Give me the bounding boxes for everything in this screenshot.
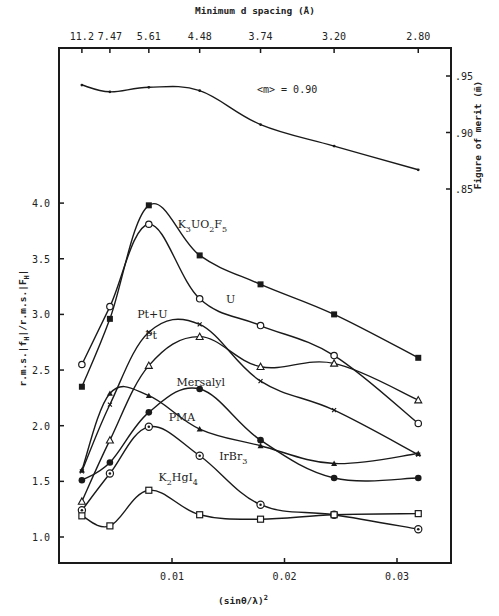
open-circle-marker <box>146 221 152 227</box>
series-label-mersalyl: Mersalyl <box>177 376 226 389</box>
small-dot-marker <box>333 145 336 148</box>
right-axis-title: Figure of merit (m̄) <box>472 81 483 190</box>
curve-mersalyl <box>82 388 418 481</box>
small-dot-marker <box>417 168 420 171</box>
filled-circle-marker <box>257 437 264 444</box>
left-tick-label: 3.5 <box>32 254 50 265</box>
filled-square-marker <box>79 384 85 390</box>
filled-square-marker <box>197 252 203 258</box>
top-tick-label: 4.48 <box>188 31 212 42</box>
plot-frame <box>59 48 451 563</box>
top-tick-label: 2.80 <box>406 31 430 42</box>
left-tick-label: 2.5 <box>32 365 50 376</box>
left-axis-title: r.m.s.|fH|/r.m.s.|FH| <box>17 269 31 386</box>
cross-marker <box>259 379 263 383</box>
filled-circle-marker <box>146 409 153 416</box>
filled-circle-marker <box>107 459 114 466</box>
open-circle-marker <box>107 303 113 309</box>
series-label-k3uo2f5: K3UO2F5 <box>178 218 227 234</box>
open-square-marker <box>146 487 152 493</box>
top-axis-ticks: 11.27.475.614.483.743.202.80 <box>70 31 430 53</box>
filled-square-marker <box>146 202 152 208</box>
left-tick-label: 4.0 <box>32 198 50 209</box>
bottom-tick-label: 0.01 <box>160 571 184 582</box>
open-triangle-marker <box>106 437 113 443</box>
curve-pt-u <box>82 319 418 471</box>
merit-annotation: <m> = 0.90 <box>257 84 317 95</box>
small-dot-marker <box>80 84 83 87</box>
open-square-marker <box>107 523 113 529</box>
series-label-irbr3: IrBr3 <box>219 450 247 466</box>
top-tick-label: 7.47 <box>98 31 122 42</box>
top-axis-title: Minimum d spacing (Å) <box>195 5 315 16</box>
left-tick-label: 2.0 <box>32 421 50 432</box>
bottom-axis-ticks: 0.010.020.03 <box>160 558 409 582</box>
curve-k2hgi4 <box>82 490 418 527</box>
curve-pt <box>82 337 418 502</box>
filled-circle-marker <box>79 477 86 484</box>
open-square-marker <box>79 513 85 519</box>
left-tick-label: 1.0 <box>32 532 50 543</box>
top-tick-label: 3.74 <box>248 31 272 42</box>
series-label-k2hgi4: K2HgI4 <box>159 471 198 487</box>
open-circle-marker <box>415 420 421 426</box>
filled-square-marker <box>107 316 113 322</box>
open-circle-marker <box>331 352 337 358</box>
filled-circle-marker <box>415 475 422 482</box>
series-curves <box>82 85 418 529</box>
series-label-pma: PMA <box>169 411 197 424</box>
bottom-tick-label: 0.03 <box>385 571 409 582</box>
filled-square-marker <box>331 311 337 317</box>
series-label-pt-u: Pt+U <box>137 308 167 321</box>
curve-pma <box>82 387 418 471</box>
curve-figure-of-merit <box>82 85 418 170</box>
open-square-marker <box>415 511 421 517</box>
filled-circle-marker <box>331 475 338 482</box>
small-dot-marker <box>198 89 201 92</box>
open-circle-marker <box>196 296 202 302</box>
small-dot-marker <box>147 86 150 89</box>
right-tick-label: .95 <box>455 71 473 82</box>
open-square-marker <box>258 516 264 522</box>
series-markers <box>78 84 422 533</box>
top-tick-label: 3.20 <box>322 31 346 42</box>
open-triangle-marker <box>78 498 85 504</box>
curve-k3uo2f5 <box>82 204 418 387</box>
small-dot-marker <box>109 90 112 93</box>
open-triangle-marker <box>415 397 422 403</box>
open-square-marker <box>331 512 337 518</box>
open-circle-marker <box>257 322 263 328</box>
left-tick-label: 3.0 <box>32 309 50 320</box>
open-square-marker <box>197 512 203 518</box>
right-tick-label: .90 <box>455 128 473 139</box>
bottom-axis-title: (sinθ/λ)2 <box>218 594 268 606</box>
chart: 11.27.475.614.483.743.202.80 0.010.020.0… <box>0 0 499 616</box>
bottom-tick-label: 0.02 <box>272 571 296 582</box>
filled-square-marker <box>415 355 421 361</box>
open-circle-marker <box>79 361 85 367</box>
filled-square-marker <box>258 281 264 287</box>
top-tick-label: 11.2 <box>70 31 94 42</box>
series-label-u: U <box>226 293 235 306</box>
small-dot-marker <box>259 123 262 126</box>
left-tick-label: 1.5 <box>32 476 50 487</box>
top-tick-label: 5.61 <box>137 31 161 42</box>
series-label-pt: Pt <box>145 329 157 342</box>
right-tick-label: .85 <box>455 184 473 195</box>
curve-u <box>82 224 418 423</box>
